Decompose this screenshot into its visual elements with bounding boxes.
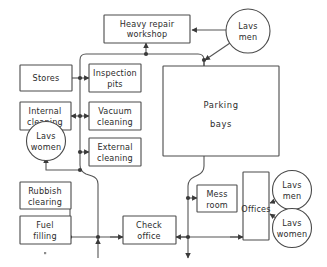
node-label-lavs-women-bottom-line2: women [277,229,308,239]
node-lavs-men-top[interactable]: Lavs men [226,9,270,53]
node-label-lavs-men-top-line1: Lavs [238,21,257,31]
node-label-lavs-women-left-line1: Lavs [36,131,55,141]
node-label-external-cleaning-line1: External [97,142,132,152]
node-label-lavs-women-bottom-line1: Lavs [282,218,301,228]
junction-dot [78,76,82,80]
node-label-lavs-men-top-line2: men [239,32,258,42]
scan-speck [44,252,46,254]
node-heavy-repair-workshop[interactable]: Heavy repair workshop [104,15,190,43]
junction-dot [144,52,148,56]
node-label-lavs-women-left-line2: women [31,142,62,152]
node-label-mess-room-line2: room [206,200,228,210]
node-label-stores: Stores [33,73,60,83]
node-label-heavy-repair-line2: workshop [127,29,168,39]
node-label-fuel-filling-line2: filling [33,231,57,241]
node-stores[interactable]: Stores [20,65,72,91]
node-label-inspection-pits-line2: pits [107,79,123,89]
junction-dot [186,196,190,200]
node-label-lavs-men-bottom-line1: Lavs [282,180,301,190]
node-label-rubbish-clearing-line1: Rubbish [28,186,62,196]
junction-dot [202,58,206,62]
diagram-page: Heavy repair workshop Lavs men Stores In… [0,0,327,267]
node-offices[interactable]: Offices [241,172,270,240]
node-fuel-filling[interactable]: Fuel filling [20,216,71,244]
node-label-lavs-men-bottom-line2: men [283,191,302,201]
node-label-internal-cleaning-line1: Internal [29,106,62,116]
node-lavs-men-bottom[interactable]: Lavs men [273,171,312,210]
depot-flow-diagram: Heavy repair workshop Lavs men Stores In… [0,0,327,267]
node-label-fuel-filling-line1: Fuel [36,220,53,230]
node-label-rubbish-clearing-line2: clearing [28,197,62,207]
junction-dot [96,235,100,239]
node-label-inspection-pits-line1: Inspection [93,68,137,78]
connector-lavsmen-to-parking [205,41,233,60]
junction-dot [78,114,82,118]
node-label-check-office-line2: office [137,231,161,241]
node-parking-bays[interactable]: Parking bays [163,66,279,156]
node-label-check-office-line1: Check [136,220,162,230]
node-lavs-women-left[interactable]: Lavs women [27,122,66,161]
node-label-parking-bays-line2: bays [210,119,232,129]
node-check-office[interactable]: Check office [123,216,176,244]
node-external-cleaning[interactable]: External cleaning [89,138,141,166]
node-label-vacuum-cleaning-line2: cleaning [97,117,133,127]
node-mess-room[interactable]: Mess room [197,185,237,212]
node-label-mess-room-line1: Mess [206,189,227,199]
node-label-external-cleaning-line2: cleaning [97,153,133,163]
junction-dot [186,235,190,239]
junction-dot [78,168,82,172]
node-label-offices: Offices [241,204,270,214]
node-rubbish-clearing[interactable]: Rubbish clearing [20,182,71,209]
node-label-parking-bays-line1: Parking [203,100,238,110]
junction-dot [78,150,82,154]
node-label-vacuum-cleaning-line1: Vacuum [98,106,132,116]
node-label-heavy-repair-line1: Heavy repair [120,19,175,29]
node-inspection-pits[interactable]: Inspection pits [89,64,141,92]
node-lavs-women-bottom[interactable]: Lavs women [273,209,312,248]
node-vacuum-cleaning[interactable]: Vacuum cleaning [89,102,141,130]
